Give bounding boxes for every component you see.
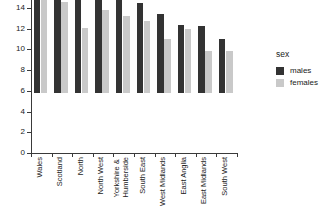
x-axis-tick <box>93 153 94 157</box>
legend-label-females: females <box>290 79 318 87</box>
bar-male-south-west <box>219 39 226 93</box>
bar-female-west-midlands <box>164 39 171 93</box>
y-axis-tick <box>27 132 32 133</box>
legend-item-males: males <box>276 67 318 75</box>
x-axis-label: South West <box>221 157 230 196</box>
y-axis-tick <box>27 8 32 9</box>
x-axis-tick <box>134 153 135 157</box>
x-axis-label: East Midlands <box>200 157 209 204</box>
legend: sex males females <box>276 49 318 91</box>
legend-swatch-males-icon <box>276 67 284 75</box>
bar-male-scotland <box>54 0 61 93</box>
x-axis-label: North West <box>97 157 106 194</box>
y-axis-tick <box>27 70 32 71</box>
bar-female-wales <box>41 0 48 93</box>
x-axis-tick <box>72 153 73 157</box>
bar-female-yorkshire-humberside <box>123 16 130 93</box>
bar-female-east-anglia <box>185 29 192 93</box>
x-axis-tick <box>237 153 238 157</box>
y-axis-tick <box>27 112 32 113</box>
bar-female-north <box>82 28 89 93</box>
bar-male-yorkshire-humberside <box>116 0 123 93</box>
x-axis-tick <box>196 153 197 157</box>
bar-female-scotland <box>61 2 68 93</box>
bar-male-wales <box>34 0 41 93</box>
bar-male-south-east <box>137 3 144 93</box>
bar-female-south-west <box>226 51 233 93</box>
legend-label-males: males <box>290 67 311 75</box>
x-axis-tick <box>175 153 176 157</box>
x-axis-tick <box>155 153 156 157</box>
bar-male-east-midlands <box>198 26 205 93</box>
y-axis-tick <box>27 153 32 154</box>
plot-area: 02468101214 WalesScotlandNorthNorth West… <box>0 0 335 220</box>
y-axis-tick <box>27 29 32 30</box>
legend-item-females: females <box>276 79 318 87</box>
x-axis-tick <box>216 153 217 157</box>
x-axis-label: Wales <box>36 157 45 178</box>
bar-male-west-midlands <box>157 14 164 93</box>
y-axis-tick <box>27 49 32 50</box>
x-axis-label: Scotland <box>56 157 65 186</box>
legend-swatch-females-icon <box>276 79 284 87</box>
x-axis-label: North <box>77 157 86 175</box>
bar-chart: 02468101214 WalesScotlandNorthNorth West… <box>0 0 335 220</box>
bar-female-north-west <box>102 10 109 93</box>
bar-female-south-east <box>144 21 151 94</box>
bar-male-north-west <box>95 0 102 93</box>
bar-female-east-midlands <box>205 51 212 93</box>
y-axis-tick <box>27 91 32 92</box>
legend-title: sex <box>276 49 318 59</box>
x-axis-label: East Anglia <box>180 157 189 195</box>
x-axis-tick <box>52 153 53 157</box>
bar-male-north <box>75 0 82 93</box>
x-axis-label: West Midlands <box>159 157 168 206</box>
x-axis-label: Yorkshire &Humberside <box>113 157 130 197</box>
x-axis-label: South East <box>139 157 148 194</box>
bar-male-east-anglia <box>178 25 185 93</box>
